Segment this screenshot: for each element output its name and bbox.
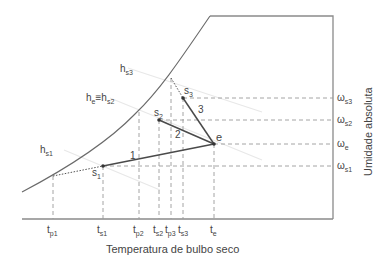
y-axis-title: Umidade absoluta <box>362 86 374 176</box>
label-hs3: hs3 <box>120 63 133 76</box>
tick-tp1: tp1 <box>47 224 58 238</box>
x-axis-title: Temperatura de bulbo seco <box>106 243 239 255</box>
s3-to-saturation <box>171 78 183 98</box>
psychrometric-diagram: e s1 s2 s3 1 2 3 hs3 he≡hs2 hs1 tp1 ts1 … <box>0 0 381 267</box>
tick-ts2: ts2 <box>153 224 163 237</box>
process-label-2: 2 <box>175 129 181 140</box>
tick-we: ωe <box>337 138 349 151</box>
label-s1: s1 <box>92 167 101 180</box>
chart-frame <box>22 16 333 219</box>
point-s3 <box>181 96 185 100</box>
process-line-1 <box>103 144 214 166</box>
x-tick-labels: tp1 ts1 tp2 ts2 tp3 ts3 te <box>47 224 217 238</box>
label-s3: s3 <box>184 85 193 98</box>
label-he-hs2: he≡hs2 <box>86 92 114 105</box>
label-s2: s2 <box>154 107 163 120</box>
tick-tp2: tp2 <box>133 224 144 238</box>
saturation-paths <box>53 78 183 176</box>
tick-ws1: ωs1 <box>337 160 352 173</box>
top-right-boundary <box>210 16 333 219</box>
y-tick-labels: ωs3 ωs2 ωe ωs1 <box>337 92 352 173</box>
enthalpy-line-hs1 <box>64 150 160 190</box>
process-label-1: 1 <box>130 150 136 161</box>
tick-te: te <box>210 224 217 237</box>
tick-ws3: ωs3 <box>337 92 352 105</box>
tick-ws2: ωs2 <box>337 114 352 127</box>
point-s1 <box>101 164 105 168</box>
enthalpy-line-hs3 <box>128 68 262 112</box>
tick-ts1: ts1 <box>97 224 107 237</box>
process-label-3: 3 <box>198 104 204 115</box>
tick-ts3: ts3 <box>178 224 188 237</box>
label-e: e <box>216 131 222 143</box>
label-hs1: hs1 <box>40 144 53 157</box>
tick-tp3: tp3 <box>165 224 176 238</box>
